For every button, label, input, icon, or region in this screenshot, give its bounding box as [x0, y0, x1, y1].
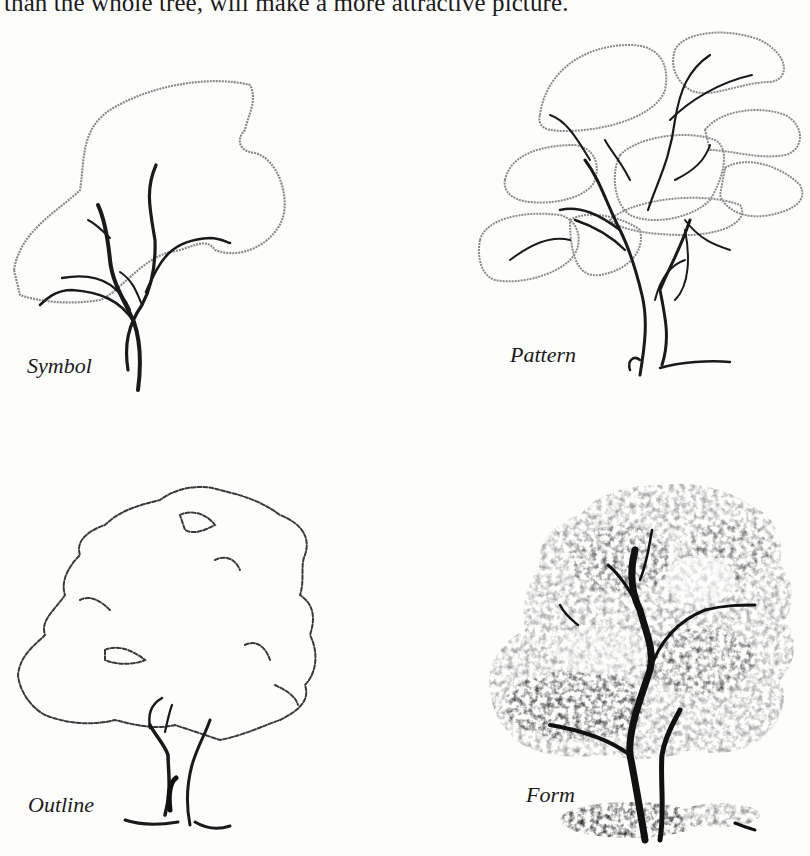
caption-pattern: Pattern: [510, 342, 576, 368]
caption-form: Form: [526, 782, 575, 808]
caption-symbol: Symbol: [27, 353, 92, 379]
figure-form: Form: [480, 470, 810, 856]
figure-pattern: Pattern: [470, 20, 810, 380]
tree-symbol-drawing: [0, 60, 300, 400]
tree-pattern-drawing: [470, 20, 810, 380]
caption-outline: Outline: [28, 792, 94, 818]
figure-symbol: Symbol: [0, 60, 300, 400]
figure-outline: Outline: [0, 470, 350, 850]
body-text-line: than the whole tree, will make a more at…: [4, 0, 569, 18]
